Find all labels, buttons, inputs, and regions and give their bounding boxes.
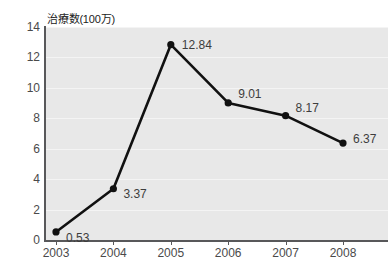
x-tick-mark xyxy=(228,241,229,245)
x-tick-mark xyxy=(343,241,344,245)
data-point-label: 12.84 xyxy=(182,38,212,52)
data-point-label: 0.53 xyxy=(66,231,89,245)
x-tick-label: 2008 xyxy=(330,246,357,260)
data-point-marker xyxy=(110,185,117,192)
x-tick-mark xyxy=(113,241,114,245)
data-point-marker xyxy=(282,112,289,119)
data-point-marker xyxy=(167,41,174,48)
x-tick-mark xyxy=(56,241,57,245)
data-point-marker xyxy=(339,139,346,146)
x-tick-label: 2006 xyxy=(215,246,242,260)
x-tick-label: 2003 xyxy=(43,246,70,260)
line-chart: 治療数(100万) 02468101214 200320042005200620… xyxy=(0,0,388,273)
data-point-label: 9.01 xyxy=(238,87,261,101)
x-tick-label: 2007 xyxy=(272,246,299,260)
data-point-label: 6.37 xyxy=(353,132,376,146)
series-polyline xyxy=(56,45,343,232)
data-point-marker xyxy=(225,99,232,106)
data-point-label: 8.17 xyxy=(296,101,319,115)
x-tick-mark xyxy=(286,241,287,245)
data-point-marker xyxy=(52,228,59,235)
x-tick-mark xyxy=(171,241,172,245)
x-tick-label: 2004 xyxy=(100,246,127,260)
x-tick-label: 2005 xyxy=(157,246,184,260)
data-point-label: 3.37 xyxy=(123,187,146,201)
